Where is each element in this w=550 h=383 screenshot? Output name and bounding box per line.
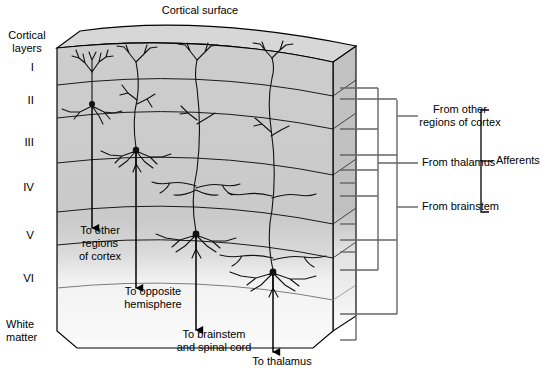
cortical-surface-label: Cortical surface	[110, 4, 290, 17]
neuron-2-soma	[133, 147, 139, 153]
layer-label-VI: VI	[0, 272, 34, 285]
neuron-1-soma	[89, 101, 95, 107]
layer-label-III: III	[0, 136, 34, 149]
efferent-label-to-opposite-hemisphere: To opposite hemisphere	[98, 285, 208, 311]
afferent-label-from-thalamus: From thalamus	[422, 156, 495, 169]
block-right-face	[333, 46, 356, 331]
white-matter-label: White matter	[6, 318, 37, 344]
afferents-group-label: Afferents	[496, 154, 540, 167]
efferent-label-to-thalamus: To thalamus	[232, 355, 332, 368]
efferent-label-to-other-cortex: To other regions of cortex	[56, 224, 144, 263]
cortical-layers-figure: Cortical surface Cortical layers I II II…	[0, 0, 550, 383]
layer-label-I: I	[0, 61, 34, 74]
afferent-label-from-brainstem: From brainstem	[422, 200, 499, 213]
diagram-canvas	[0, 0, 550, 383]
efferent-label-to-brainstem-spinal-cord: To brainstem and spinal cord	[152, 328, 276, 354]
layer-label-V: V	[0, 229, 34, 242]
afferent-label-from-other-cortex: From other regions of cortex	[406, 103, 514, 129]
cortical-layers-label: Cortical layers	[0, 29, 54, 55]
layer-label-IV: IV	[0, 181, 34, 194]
layer-label-II: II	[0, 94, 34, 107]
